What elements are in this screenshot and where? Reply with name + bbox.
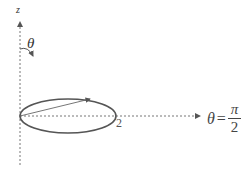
z-axis-label: z <box>16 4 20 15</box>
fraction-numerator: π <box>231 102 239 117</box>
theta-label: θ <box>27 35 34 52</box>
pi-over-two-fraction: π 2 <box>228 102 241 135</box>
equals-sign: = <box>217 110 226 128</box>
theta-equals-label: θ = π 2 <box>207 102 241 135</box>
radius-arrow <box>20 99 90 116</box>
fraction-denominator: 2 <box>231 120 239 135</box>
diagram-canvas <box>0 0 250 171</box>
theta-symbol: θ <box>207 110 215 128</box>
radius-value-label: 2 <box>116 116 122 131</box>
